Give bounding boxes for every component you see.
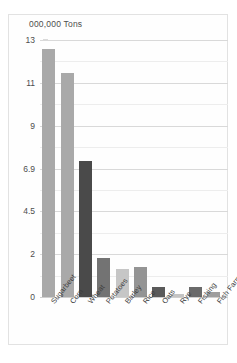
- bar-barley[interactable]: [116, 269, 129, 297]
- plot-area: [40, 40, 228, 297]
- gridline-major: [40, 297, 228, 298]
- bar-corn[interactable]: [61, 73, 74, 297]
- gridline-major: [40, 40, 228, 41]
- bar-fishing[interactable]: [189, 287, 202, 297]
- y-axis-tick-label: 6.9: [23, 164, 35, 174]
- bar-sugarbeet[interactable]: [42, 49, 55, 297]
- y-axis-tick-label: 2: [30, 249, 35, 259]
- y-axis-tick-label: 0: [30, 292, 35, 302]
- y-axis-tick-label: 11: [26, 78, 35, 88]
- y-axis-tick-label: 9: [30, 121, 35, 131]
- bar-rice[interactable]: [134, 267, 147, 297]
- y-axis-tick-label: 13: [26, 35, 35, 45]
- bar-potatoes[interactable]: [97, 258, 110, 297]
- y-axis-tick-label: 4.5: [23, 206, 35, 216]
- bar-wheat[interactable]: [79, 161, 92, 297]
- bar-oats[interactable]: [152, 287, 165, 297]
- chart-title: 000,000 Tons: [29, 19, 82, 29]
- bar-fish-farming[interactable]: [207, 292, 220, 297]
- gridline-minor: [40, 61, 228, 62]
- y-axis: 131196.94.520: [8, 0, 35, 363]
- bar-rye[interactable]: [171, 294, 184, 297]
- bar-chart: 000,000 Tons 131196.94.520 SugarbeetCorn…: [0, 0, 237, 363]
